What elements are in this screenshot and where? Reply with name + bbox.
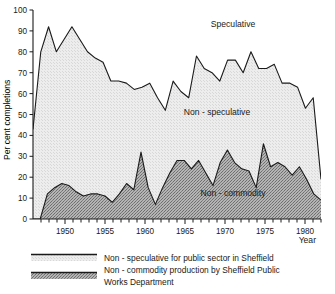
- x-tick-label: 1965: [176, 227, 195, 236]
- legend-label-non-commodity-line2: Works Department: [104, 277, 174, 287]
- plot-area: [33, 27, 321, 219]
- y-tick-label: 30: [18, 152, 28, 161]
- legend: Non - speculative for public sector in S…: [31, 253, 280, 287]
- y-tick-label: 100: [13, 6, 27, 15]
- x-tick-label: 1975: [256, 227, 275, 236]
- x-tick-label: 1960: [136, 227, 155, 236]
- y-tick-label: 20: [18, 173, 28, 182]
- x-axis-title: Year: [299, 235, 317, 245]
- chart-annotation: Speculative: [211, 19, 256, 29]
- y-tick-label: 80: [18, 48, 28, 57]
- y-tick-label: 40: [18, 131, 28, 140]
- y-tick-label: 50: [18, 111, 28, 120]
- y-tick-label: 10: [18, 194, 28, 203]
- y-tick-label: 90: [18, 27, 28, 36]
- legend-item-non-commodity: Non - commodity production by Sheffield …: [31, 265, 280, 287]
- y-tick-label: 70: [18, 69, 28, 78]
- y-tick-label: 0: [22, 215, 27, 224]
- chart-annotation: Non - commodity: [201, 188, 267, 198]
- x-tick-label: 1955: [96, 227, 115, 236]
- x-tick-label: 1950: [56, 227, 75, 236]
- chart-annotation: Non - speculative: [184, 107, 251, 117]
- x-tick-marks: [41, 219, 321, 224]
- legend-item-non-speculative: Non - speculative for public sector in S…: [31, 253, 274, 263]
- x-tick-labels: 1950195519601965197019751980: [56, 227, 315, 236]
- y-tick-labels: 0102030405060708090100: [13, 6, 27, 224]
- chart-svg: 0102030405060708090100 19501955196019651…: [0, 0, 335, 294]
- y-tick-label: 60: [18, 90, 28, 99]
- x-tick-label: 1970: [216, 227, 235, 236]
- chart-figure: 0102030405060708090100 19501955196019651…: [0, 0, 335, 294]
- chart-canvas: 0102030405060708090100 19501955196019651…: [0, 0, 335, 294]
- legend-label-non-commodity-line1: Non - commodity production by Sheffield …: [104, 265, 280, 275]
- y-axis-title: Per cent completions: [2, 80, 12, 160]
- legend-label-non-speculative: Non - speculative for public sector in S…: [104, 253, 274, 263]
